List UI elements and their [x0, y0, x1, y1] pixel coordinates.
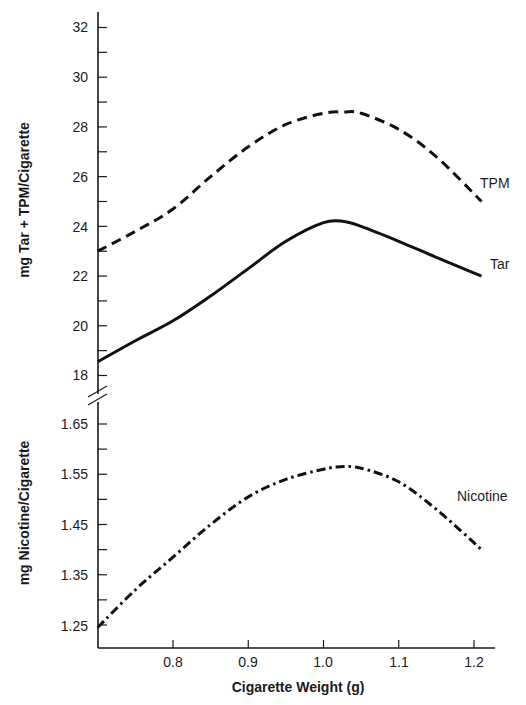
x-tick-label: 1.2	[464, 654, 484, 670]
lower-y-axis-title: mg Nicotine/Cigarette	[16, 440, 32, 585]
y-tick-label: 32	[72, 19, 88, 35]
y-tick-label: 1.45	[61, 517, 88, 533]
nicotine-label: Nicotine	[457, 488, 508, 504]
y-tick-label: 22	[72, 268, 88, 284]
x-tick-label: 1.1	[389, 654, 409, 670]
x-tick-label: 0.9	[238, 654, 258, 670]
x-tick-label: 0.8	[163, 654, 183, 670]
x-axis: 0.8 0.9 1.0 1.1 1.2 Cigarette Weight (g)	[98, 640, 495, 695]
y-tick-label: 26	[72, 169, 88, 185]
y-tick-label: 1.35	[61, 567, 88, 583]
y-tick-label: 1.65	[61, 416, 88, 432]
y-tick-label: 1.25	[61, 618, 88, 634]
y-tick-label: 18	[72, 367, 88, 383]
nicotine-curve	[98, 466, 482, 627]
upper-y-axis-title: mg Tar + TPM/Cigarette	[16, 122, 32, 278]
chart: 0.8 0.9 1.0 1.1 1.2 Cigarette Weight (g)…	[0, 0, 526, 705]
y-tick-label: 1.55	[61, 466, 88, 482]
lower-y-ticks: 1.65 1.55 1.45 1.35 1.25	[61, 416, 107, 634]
x-tick-label: 1.0	[313, 654, 333, 670]
y-tick-label: 28	[72, 119, 88, 135]
x-axis-title: Cigarette Weight (g)	[232, 679, 365, 695]
y-axis	[88, 12, 107, 648]
tpm-curve	[98, 112, 482, 252]
tpm-label: TPM	[480, 175, 510, 191]
y-tick-label: 30	[72, 69, 88, 85]
y-tick-label: 24	[72, 219, 88, 235]
upper-y-ticks: 32 30 28 26 24 22 20 18	[72, 19, 107, 383]
y-tick-label: 20	[72, 318, 88, 334]
tar-label: Tar	[490, 256, 510, 272]
tar-curve	[98, 221, 482, 362]
